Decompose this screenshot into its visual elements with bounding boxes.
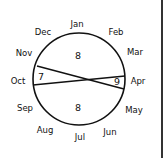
month-label-jul: Jul <box>74 132 85 142</box>
month-label-jun: Jun <box>102 127 116 137</box>
region-value-right: 9 <box>114 76 120 87</box>
diagram-canvas: JanFebMarAprMayJunJulAugSepOctNovDec 879… <box>0 0 165 158</box>
month-label-may: May <box>125 105 143 115</box>
month-label-mar: Mar <box>127 47 144 57</box>
month-label-feb: Feb <box>108 27 123 37</box>
region-values: 8798 <box>38 50 120 113</box>
chord-lines <box>33 66 125 89</box>
region-value-left: 7 <box>38 71 44 82</box>
month-label-aug: Aug <box>37 125 54 135</box>
month-label-apr: Apr <box>131 76 146 86</box>
month-circle-diagram: JanFebMarAprMayJunJulAugSepOctNovDec 879… <box>0 0 165 158</box>
month-label-jan: Jan <box>69 19 83 29</box>
month-label-nov: Nov <box>16 48 33 58</box>
month-label-oct: Oct <box>11 76 26 86</box>
region-value-top: 8 <box>75 50 81 61</box>
month-label-dec: Dec <box>35 27 52 37</box>
right-border-line <box>161 0 163 158</box>
region-value-bottom: 8 <box>75 102 81 113</box>
month-label-sep: Sep <box>17 103 33 113</box>
